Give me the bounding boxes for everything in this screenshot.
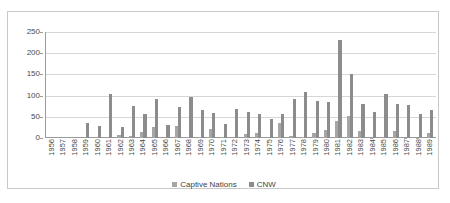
x-axis-tick-label: 1965 <box>151 139 159 156</box>
x-axis-tick-label: 1966 <box>162 139 170 156</box>
bar <box>316 101 319 138</box>
bar-group <box>379 32 390 138</box>
bar-group <box>149 32 160 138</box>
bar-group <box>321 32 332 138</box>
x-axis-tick-label: 1979 <box>312 139 320 156</box>
bar-group <box>218 32 229 138</box>
x-axis-tick: 1985 <box>379 139 390 173</box>
x-axis-tick: 1974 <box>252 139 263 173</box>
x-axis-tick: 1956 <box>46 139 57 173</box>
bar <box>189 97 192 138</box>
x-axis-tick-label: 1985 <box>380 139 388 156</box>
y-axis: 050100150200250 <box>15 32 43 138</box>
x-axis-tick-label: 1976 <box>277 139 285 156</box>
bar-group <box>356 32 367 138</box>
bar-group <box>310 32 321 138</box>
bar <box>384 94 387 138</box>
x-axis-tick: 1957 <box>57 139 68 173</box>
bar <box>166 125 169 138</box>
x-axis-tick: 1984 <box>367 139 378 173</box>
legend-label-cnw: CNW <box>257 180 276 189</box>
y-axis-tick-label: 50 <box>31 113 40 121</box>
x-axis-tick-label: 1987 <box>403 139 411 156</box>
x-axis-tick-label: 1977 <box>289 139 297 156</box>
legend-swatch-captive-nations-icon <box>172 182 177 187</box>
bar <box>430 110 433 138</box>
x-axis-tick: 1969 <box>195 139 206 173</box>
x-axis-tick: 1980 <box>321 139 332 173</box>
x-axis-tick-label: 1972 <box>231 139 239 156</box>
y-axis-tick-label: 250 <box>27 28 40 36</box>
bar-group <box>138 32 149 138</box>
chart-frame: 050100150200250 195619571958195919601961… <box>7 11 439 189</box>
x-axis-tick: 1989 <box>424 139 435 173</box>
bar-group <box>344 32 355 138</box>
x-axis-tick: 1981 <box>333 139 344 173</box>
bar <box>178 107 181 138</box>
bar <box>121 127 124 138</box>
x-axis-tick-label: 1961 <box>105 139 113 156</box>
x-axis-tick: 1977 <box>287 139 298 173</box>
y-axis-tick <box>40 117 43 118</box>
bar-group <box>367 32 378 138</box>
bar <box>212 113 215 138</box>
x-axis-tick-label: 1956 <box>48 139 56 156</box>
x-axis-tick-label: 1983 <box>357 139 365 156</box>
bar <box>132 106 135 138</box>
bar-group <box>264 32 275 138</box>
x-axis-tick-label: 1970 <box>208 139 216 156</box>
x-axis-tick: 1979 <box>310 139 321 173</box>
x-axis-tick: 1988 <box>413 139 424 173</box>
x-axis-tick: 1958 <box>69 139 80 173</box>
x-axis-tick: 1971 <box>218 139 229 173</box>
bar <box>86 123 89 138</box>
x-axis-tick: 1986 <box>390 139 401 173</box>
y-axis-tick <box>40 138 43 139</box>
x-axis-tick: 1983 <box>356 139 367 173</box>
bar <box>373 112 376 138</box>
x-axis-tick-label: 1958 <box>71 139 79 156</box>
legend-item-cnw: CNW <box>249 180 276 189</box>
bar-group <box>298 32 309 138</box>
y-axis-tick-label: 200 <box>27 49 40 57</box>
x-axis: 1956195719581959196019611962196319641965… <box>46 139 436 173</box>
x-axis-tick-label: 1968 <box>185 139 193 156</box>
x-axis-tick-label: 1980 <box>323 139 331 156</box>
x-axis-tick: 1959 <box>80 139 91 173</box>
bar <box>338 40 341 138</box>
bar-group <box>287 32 298 138</box>
bar-group <box>103 32 114 138</box>
bar <box>247 112 250 138</box>
bar-group <box>161 32 172 138</box>
x-axis-tick: 1972 <box>230 139 241 173</box>
x-axis-tick: 1967 <box>172 139 183 173</box>
legend-swatch-cnw-icon <box>249 182 254 187</box>
x-axis-tick-label: 1978 <box>300 139 308 156</box>
x-axis-tick-label: 1964 <box>139 139 147 156</box>
x-axis-tick-label: 1971 <box>220 139 228 156</box>
y-axis-tick-label: 100 <box>27 92 40 100</box>
x-axis-tick: 1976 <box>275 139 286 173</box>
bar <box>224 124 227 138</box>
bar <box>304 92 307 138</box>
bar-group <box>333 32 344 138</box>
bar-group <box>92 32 103 138</box>
bar-group <box>126 32 137 138</box>
x-axis-tick: 1960 <box>92 139 103 173</box>
x-axis-tick-label: 1988 <box>415 139 423 156</box>
x-axis-tick: 1961 <box>103 139 114 173</box>
bar-group <box>57 32 68 138</box>
x-axis-tick-label: 1984 <box>369 139 377 156</box>
bar-group <box>252 32 263 138</box>
x-axis-tick-label: 1967 <box>174 139 182 156</box>
x-axis-tick: 1962 <box>115 139 126 173</box>
bar-group <box>80 32 91 138</box>
bar <box>293 99 296 138</box>
bar <box>235 109 238 138</box>
x-axis-tick-label: 1986 <box>392 139 400 156</box>
y-axis-tick <box>40 32 43 33</box>
bar-group <box>424 32 435 138</box>
bar <box>201 110 204 138</box>
x-axis-tick-label: 1981 <box>334 139 342 156</box>
x-axis-tick: 1968 <box>184 139 195 173</box>
